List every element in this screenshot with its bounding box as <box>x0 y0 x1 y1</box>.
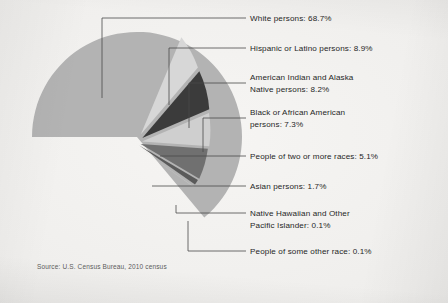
source-note: Source: U.S. Census Bureau, 2010 census <box>37 263 167 270</box>
pie-label-asian-persons: Asian persons: 1.7% <box>250 181 327 193</box>
label-line-2: Native persons: 8.2% <box>250 84 353 96</box>
pie-label-american-indian-and-alaska-native-persons: American Indian and Alaska Native person… <box>250 72 353 95</box>
pie-label-people-of-some-other-race: People of some other race: 0.1% <box>250 246 372 258</box>
pie-slice-white-persons[interactable] <box>32 32 242 218</box>
label-line-1: American Indian and Alaska <box>250 73 353 82</box>
chart-page: White persons: 68.7% Hispanic or Latino … <box>0 0 448 303</box>
pie-chart-figure <box>0 0 448 303</box>
pie-label-hispanic-or-latino-persons: Hispanic or Latino persons: 8.9% <box>250 43 373 55</box>
label-line-2: Pacific Islander: 0.1% <box>250 220 350 232</box>
label-line-1: Asian persons: 1.7% <box>250 182 327 191</box>
label-line-1: Native Hawaiian and Other <box>250 209 350 218</box>
label-line-1: Hispanic or Latino persons: 8.9% <box>250 44 373 53</box>
pie-label-native-hawaiian-and-other-pacific-islander: Native Hawaiian and Other Pacific Island… <box>250 208 350 231</box>
pie-slices <box>32 32 242 218</box>
label-line-1: People of two or more races: 5.1% <box>250 152 378 161</box>
label-line-1: People of some other race: 0.1% <box>250 247 372 256</box>
label-line-1: White persons: 68.7% <box>250 14 332 23</box>
label-line-2: persons: 7.3% <box>250 119 345 131</box>
label-line-1: Black or African American <box>250 108 345 117</box>
pie-label-white-persons: White persons: 68.7% <box>250 13 332 25</box>
leader-line-people-of-some-other-race <box>188 221 246 251</box>
pie-label-people-of-two-or-more-races: People of two or more races: 5.1% <box>250 151 378 163</box>
pie-label-black-or-african-american-persons: Black or African American persons: 7.3% <box>250 107 345 130</box>
